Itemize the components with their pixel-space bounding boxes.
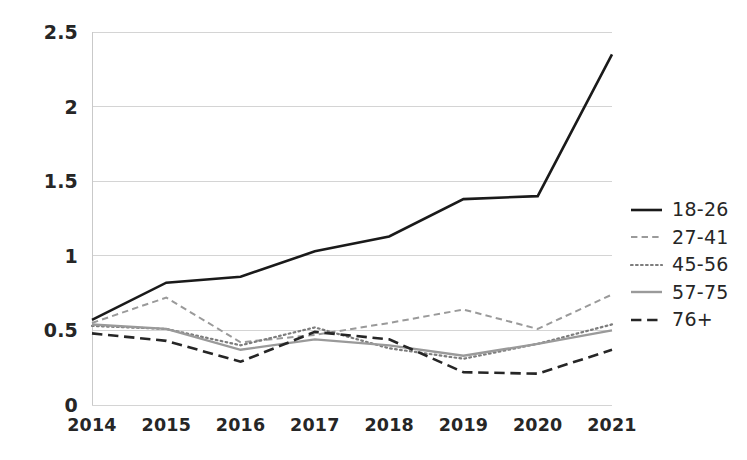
x-tick-label: 2016 [201, 417, 281, 435]
x-tick-label: 2015 [126, 417, 206, 435]
y-tick-label: 1.5 [4, 172, 78, 191]
legend-line-swatch-icon [630, 230, 663, 244]
x-tick-label: 2014 [52, 417, 132, 435]
legend-line-swatch-icon [630, 203, 663, 217]
y-tick-label: 0.5 [4, 321, 78, 340]
legend-item[interactable]: 57-75 [630, 279, 742, 307]
x-tick-label: 2017 [275, 417, 355, 435]
y-tick-label: 0 [4, 396, 78, 415]
line-chart: 00.511.522.5 201420152016201720182019202… [0, 0, 747, 460]
legend-label: 76+ [672, 310, 713, 329]
legend-item[interactable]: 27-41 [630, 224, 742, 252]
chart-legend: 18-2627-4145-5657-7576+ [630, 196, 742, 334]
y-tick-label: 2 [4, 98, 78, 117]
legend-line-swatch-icon [630, 313, 663, 327]
legend-label: 27-41 [672, 228, 729, 247]
legend-label: 57-75 [672, 283, 729, 302]
series-line-18-26 [92, 54, 612, 320]
legend-label: 45-56 [672, 255, 729, 274]
legend-item[interactable]: 45-56 [630, 251, 742, 279]
y-tick-label: 2.5 [4, 23, 78, 42]
legend-line-swatch-icon [630, 285, 663, 299]
legend-label: 18-26 [672, 200, 729, 219]
legend-item[interactable]: 18-26 [630, 196, 742, 224]
y-tick-label: 1 [4, 247, 78, 266]
series-line-27-41 [92, 295, 612, 343]
x-tick-label: 2018 [349, 417, 429, 435]
legend-item[interactable]: 76+ [630, 306, 742, 334]
legend-line-swatch-icon [630, 258, 663, 272]
x-tick-label: 2019 [423, 417, 503, 435]
x-tick-label: 2020 [498, 417, 578, 435]
x-tick-label: 2021 [572, 417, 652, 435]
